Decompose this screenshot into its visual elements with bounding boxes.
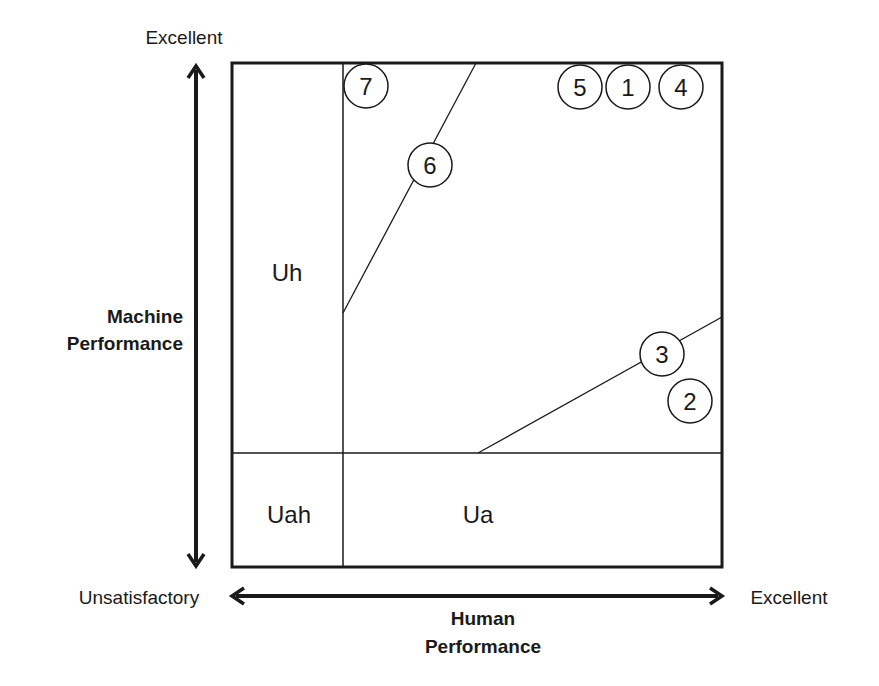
region-uah-label: Uah — [267, 501, 311, 528]
svg-text:4: 4 — [674, 74, 687, 101]
svg-text:7: 7 — [359, 73, 372, 100]
marker-7: 7 — [344, 64, 388, 108]
marker-4: 4 — [659, 65, 703, 109]
marker-1: 1 — [606, 65, 650, 109]
performance-diagram: Uh Uah Ua 7 6 5 1 4 3 2 Excellent Machin… — [0, 0, 879, 686]
x-axis-title-line1: Human — [451, 608, 515, 629]
marker-3: 3 — [640, 332, 684, 376]
y-axis-title-line1: Machine — [107, 306, 183, 327]
y-axis-arrow — [188, 66, 204, 566]
svg-text:1: 1 — [621, 74, 634, 101]
svg-text:5: 5 — [573, 74, 586, 101]
marker-6: 6 — [408, 143, 452, 187]
x-axis-arrow — [232, 588, 722, 604]
x-axis-right-label: Excellent — [750, 587, 828, 608]
y-axis-title-line2: Performance — [67, 333, 183, 354]
x-axis-title-line2: Performance — [425, 636, 541, 657]
svg-text:2: 2 — [683, 388, 696, 415]
marker-2: 2 — [668, 379, 712, 423]
svg-text:3: 3 — [655, 341, 668, 368]
x-axis-left-label: Unsatisfactory — [79, 587, 200, 608]
marker-5: 5 — [558, 65, 602, 109]
diagram-frame — [232, 63, 722, 567]
region-uh-label: Uh — [272, 259, 303, 286]
region-ua-label: Ua — [463, 501, 494, 528]
y-axis-top-label: Excellent — [145, 27, 223, 48]
svg-text:6: 6 — [423, 152, 436, 179]
